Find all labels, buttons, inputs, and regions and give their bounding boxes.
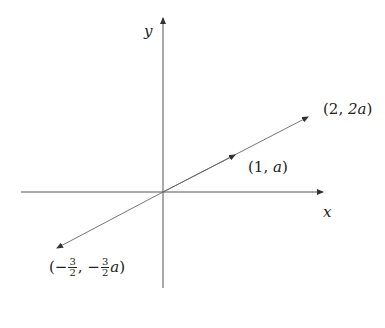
axes-and-line [0,0,385,328]
denominator: 2 [68,268,76,278]
coord-y: 2a [348,100,367,118]
coord-x: 1 [254,158,264,176]
separator: , [338,100,348,118]
paren-close: ) [366,100,372,118]
coordinate-diagram: y x (2, 2a) (1, a) (−32, −32a) [0,0,385,328]
separator: , [263,158,273,176]
point-label-neg-3-2: (−32, −32a) [49,257,125,278]
minus-sign: − [55,258,68,276]
fraction-y: 32 [101,257,109,278]
x-axis-label: x [323,203,331,221]
vector-to-1-a [163,155,235,192]
coord-x: 2 [329,100,339,118]
fraction-x: 32 [68,257,76,278]
point-label-2-2a: (2, 2a) [323,100,372,118]
paren-close: ) [119,258,125,276]
coord-y: a [273,158,282,176]
vector-to-neg-3-2 [57,192,163,248]
separator: , [78,258,88,276]
denominator: 2 [101,268,109,278]
point-label-1-a: (1, a) [248,158,288,176]
coord-var: a [110,258,119,276]
minus-sign: − [87,258,100,276]
y-axis-label: y [144,22,152,40]
paren-close: ) [282,158,288,176]
